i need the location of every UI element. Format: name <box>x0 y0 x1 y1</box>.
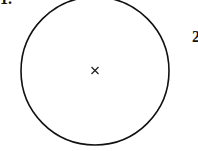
circle-figure <box>0 0 198 151</box>
circle-outline <box>21 0 169 145</box>
center-mark-icon <box>92 67 99 74</box>
